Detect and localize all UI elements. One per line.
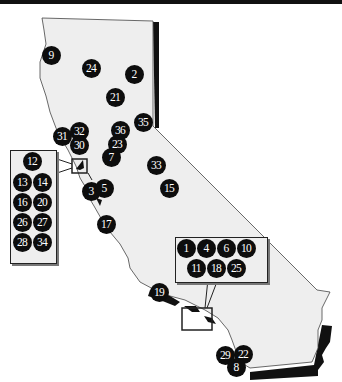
map-marker-5[interactable]: 5 bbox=[95, 179, 114, 198]
map-marker-30[interactable]: 30 bbox=[70, 136, 89, 155]
map-marker-8[interactable]: 8 bbox=[227, 358, 246, 377]
map-marker-7[interactable]: 7 bbox=[102, 148, 121, 167]
map-marker-24[interactable]: 24 bbox=[82, 59, 101, 78]
map-marker-6[interactable]: 6 bbox=[217, 239, 236, 258]
map-marker-17[interactable]: 17 bbox=[97, 215, 116, 234]
map-marker-13[interactable]: 13 bbox=[13, 173, 32, 192]
map-marker-1[interactable]: 1 bbox=[177, 239, 196, 258]
map-marker-25[interactable]: 25 bbox=[227, 259, 246, 278]
map-marker-34[interactable]: 34 bbox=[33, 233, 52, 252]
map-marker-31[interactable]: 31 bbox=[53, 127, 72, 146]
map-marker-33[interactable]: 33 bbox=[147, 156, 166, 175]
map-marker-18[interactable]: 18 bbox=[207, 259, 226, 278]
map-marker-20[interactable]: 20 bbox=[33, 193, 52, 212]
map-marker-4[interactable]: 4 bbox=[197, 239, 216, 258]
map-marker-19[interactable]: 19 bbox=[150, 283, 169, 302]
map-marker-14[interactable]: 14 bbox=[33, 173, 52, 192]
map-marker-21[interactable]: 21 bbox=[106, 88, 125, 107]
map-marker-26[interactable]: 26 bbox=[13, 213, 32, 232]
map-marker-35[interactable]: 35 bbox=[134, 113, 153, 132]
map-marker-10[interactable]: 10 bbox=[237, 239, 256, 258]
map-marker-2[interactable]: 2 bbox=[125, 65, 144, 84]
map-marker-15[interactable]: 15 bbox=[160, 179, 179, 198]
map-marker-16[interactable]: 16 bbox=[13, 193, 32, 212]
map-marker-9[interactable]: 9 bbox=[42, 46, 61, 65]
map-marker-11[interactable]: 11 bbox=[187, 259, 206, 278]
map-marker-27[interactable]: 27 bbox=[33, 213, 52, 232]
map-marker-12[interactable]: 12 bbox=[23, 152, 42, 171]
map-marker-28[interactable]: 28 bbox=[13, 233, 32, 252]
